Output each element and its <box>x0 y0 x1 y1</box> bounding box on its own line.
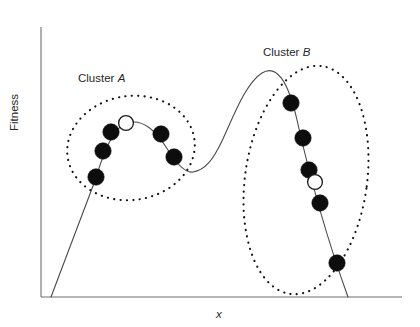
population-nodes-layer <box>88 95 345 271</box>
population-node-filled <box>88 169 104 185</box>
series-cluster-b-nodes <box>283 95 345 271</box>
population-node-filled <box>312 195 328 211</box>
cluster-b-label: Cluster B <box>263 47 310 59</box>
y-axis-label: Fitness <box>9 94 21 131</box>
fitness-landscape-figure: Fitness x Cluster A Cluster B <box>0 0 420 327</box>
population-node-filled <box>329 255 345 271</box>
cluster-a-label: Cluster A <box>78 73 125 85</box>
cluster-a-label-symbol: A <box>118 72 126 84</box>
population-node-filled <box>153 126 169 142</box>
population-node-open <box>119 116 134 131</box>
cluster-b-label-symbol: B <box>303 46 311 58</box>
population-node-filled <box>283 95 299 111</box>
population-node-filled <box>103 124 119 140</box>
population-node-filled <box>295 130 311 146</box>
cluster-b-label-prefix: Cluster <box>263 46 303 58</box>
cluster-a-outline <box>60 88 201 209</box>
figure-canvas <box>0 0 420 327</box>
population-node-filled <box>166 149 182 165</box>
x-axis-label: x <box>216 309 222 321</box>
cluster-a-label-prefix: Cluster <box>78 72 118 84</box>
population-node-open <box>308 175 323 190</box>
cluster-b-outline <box>230 58 383 303</box>
population-node-filled <box>95 143 111 159</box>
